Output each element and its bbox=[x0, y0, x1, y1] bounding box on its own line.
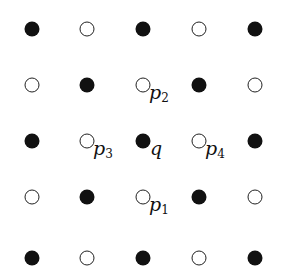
open-point bbox=[80, 251, 95, 266]
open-point bbox=[80, 22, 95, 37]
open-point bbox=[25, 78, 40, 93]
filled-point bbox=[80, 190, 95, 205]
point-label-p1: p1 bbox=[149, 195, 169, 216]
filled-point bbox=[248, 22, 263, 37]
point-label-q: q bbox=[150, 139, 162, 158]
filled-point bbox=[136, 134, 151, 149]
open-point bbox=[25, 190, 40, 205]
filled-point bbox=[80, 78, 95, 93]
filled-point bbox=[248, 134, 263, 149]
filled-point bbox=[192, 190, 207, 205]
filled-point bbox=[248, 251, 263, 266]
filled-point bbox=[136, 251, 151, 266]
filled-point bbox=[25, 22, 40, 37]
point-label-p3: p3 bbox=[93, 139, 113, 160]
filled-point bbox=[25, 251, 40, 266]
filled-point bbox=[192, 78, 207, 93]
filled-point bbox=[136, 22, 151, 37]
lattice-diagram: p2p3qp4p1 bbox=[0, 0, 282, 276]
point-label-p4: p4 bbox=[205, 139, 225, 160]
filled-point bbox=[25, 134, 40, 149]
point-label-p2: p2 bbox=[149, 83, 169, 104]
open-point bbox=[192, 251, 207, 266]
open-point bbox=[248, 190, 263, 205]
open-point bbox=[192, 22, 207, 37]
open-point bbox=[248, 78, 263, 93]
